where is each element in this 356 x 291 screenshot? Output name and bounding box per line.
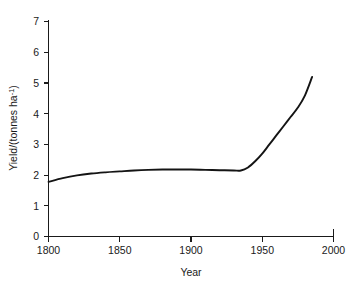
y-tick-label: 1 [33,200,39,212]
x-tick-label: 1850 [108,244,132,256]
y-tick-label: 4 [33,108,39,120]
x-tick-label: 2000 [322,244,346,256]
y-tick-label: 5 [33,77,39,89]
x-tick-label: 1800 [37,244,61,256]
chart-figure: 0 1 2 3 4 5 6 7 1800 1850 1900 1950 2000… [0,0,356,291]
x-axis-title: Year [180,266,202,278]
x-tick-label: 1900 [179,244,203,256]
y-tick-label: 0 [33,230,39,242]
yield-vs-year-line-chart: 0 1 2 3 4 5 6 7 1800 1850 1900 1950 2000… [0,0,356,291]
y-axis-title-exponent: -1 [7,89,16,96]
y-axis-title-tail: ) [7,85,19,89]
y-tick-label: 3 [33,138,39,150]
y-tick-label: 6 [33,46,39,58]
x-tick-label: 1950 [251,244,275,256]
y-axis-title: Yield/(tonnes ha-1) [7,85,20,171]
y-tick-label: 7 [33,15,39,27]
y-axis-title-main: Yield/(tonnes ha [7,95,19,171]
y-tick-label: 2 [33,169,39,181]
